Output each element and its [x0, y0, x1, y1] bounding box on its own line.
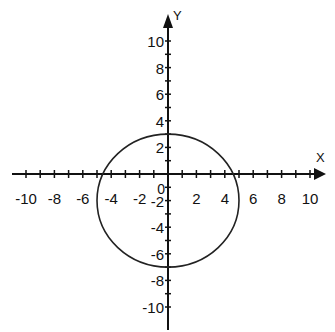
y-tick-label: -4	[151, 219, 164, 236]
coordinate-plane: -10-8-6-4-2246810108642-2-4-6-8-100 X Y	[0, 0, 335, 332]
x-tick-label: -2	[133, 190, 146, 207]
x-axis-label: X	[316, 150, 325, 165]
x-tick-label: 2	[192, 190, 200, 207]
y-tick-label: -6	[151, 246, 164, 263]
y-tick-label: 4	[156, 113, 164, 130]
plot-svg: -10-8-6-4-2246810108642-2-4-6-8-100 X Y	[0, 0, 335, 332]
y-axis-arrow-icon	[163, 14, 173, 28]
x-tick-label: -8	[48, 190, 61, 207]
origin-label: 0	[157, 181, 165, 197]
x-tick-label: 6	[249, 190, 257, 207]
x-tick-label: 4	[221, 190, 229, 207]
x-tick-label: -10	[15, 190, 37, 207]
y-tick-label: 6	[156, 86, 164, 103]
y-tick-label: -10	[142, 299, 164, 316]
y-tick-label: 8	[156, 60, 164, 77]
y-tick-label: -8	[151, 272, 164, 289]
x-tick-label: -4	[105, 190, 118, 207]
x-tick-label: 10	[302, 190, 319, 207]
y-axis-label: Y	[173, 8, 182, 23]
x-tick-label: 8	[277, 190, 285, 207]
x-tick-label: -6	[76, 190, 89, 207]
x-axis-arrow-icon	[314, 168, 326, 180]
y-tick-label: 2	[156, 139, 164, 156]
y-tick-label: 10	[147, 33, 164, 50]
axes	[12, 14, 326, 330]
